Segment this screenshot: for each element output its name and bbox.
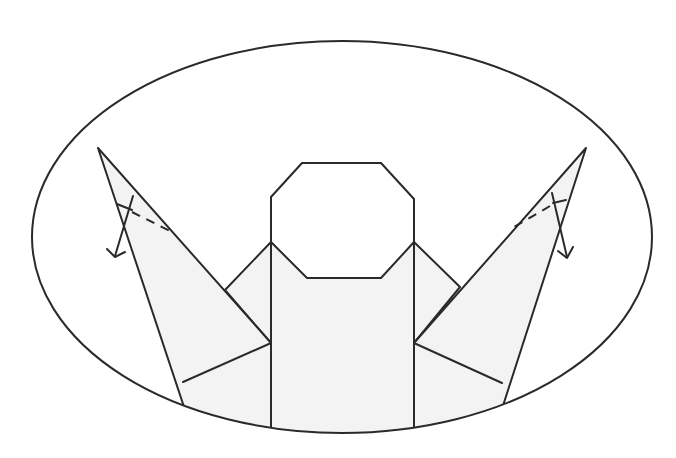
head <box>271 163 414 278</box>
origami-diagram <box>0 0 676 458</box>
